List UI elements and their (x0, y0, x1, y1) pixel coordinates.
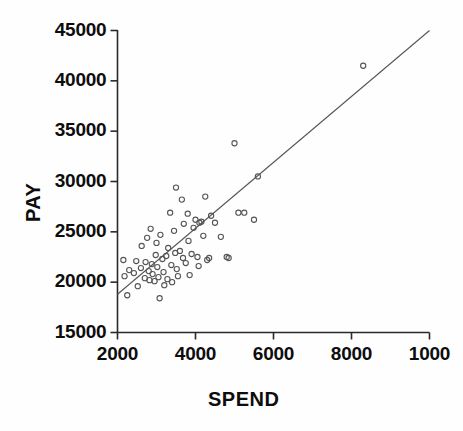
data-point (138, 265, 143, 270)
data-point (150, 272, 155, 277)
data-point (361, 63, 366, 68)
y-tick-label: 20000 (55, 270, 107, 292)
data-point (158, 232, 163, 237)
data-point (218, 234, 223, 239)
data-point (212, 220, 217, 225)
data-point (251, 217, 256, 222)
data-point (121, 257, 126, 262)
data-point (186, 238, 191, 243)
data-point (155, 264, 160, 269)
axes (118, 30, 430, 333)
y-axis-title: PAY (22, 183, 45, 222)
data-point (156, 275, 161, 280)
data-point (201, 233, 206, 238)
data-point (161, 270, 166, 275)
data-point (171, 228, 176, 233)
y-tick-label: 35000 (55, 119, 107, 141)
data-point (185, 211, 190, 216)
data-point (131, 271, 136, 276)
data-point (196, 263, 201, 268)
data-point (242, 210, 247, 215)
data-point (187, 273, 192, 278)
data-point (134, 258, 139, 263)
data-point (236, 210, 241, 215)
data-point (166, 245, 171, 250)
data-point (232, 141, 237, 146)
data-point (183, 260, 188, 265)
data-point (139, 243, 144, 248)
y-tick-label: 25000 (55, 220, 107, 242)
data-point (153, 252, 158, 257)
y-tick-label: 40000 (55, 69, 107, 91)
data-point (181, 221, 186, 226)
data-point (162, 283, 167, 288)
y-tick-label: 30000 (55, 170, 107, 192)
scatter-plot-figure: 15000200002500030000350004000045000 2000… (0, 0, 463, 431)
data-point (122, 274, 127, 279)
data-point (169, 262, 174, 267)
data-point (147, 278, 152, 283)
data-points (121, 63, 366, 301)
data-point (148, 226, 153, 231)
data-point (177, 248, 182, 253)
data-point (135, 284, 140, 289)
y-tick-marks (111, 31, 118, 333)
data-point (179, 197, 184, 202)
x-tick-marks (118, 333, 430, 340)
x-tick-label: 1000 (380, 343, 463, 365)
data-point (154, 240, 159, 245)
x-axis-title: SPEND (208, 388, 279, 411)
data-point (157, 296, 162, 301)
data-point (143, 259, 148, 264)
data-point (195, 254, 200, 259)
data-point (180, 255, 185, 260)
data-point (203, 194, 208, 199)
data-point (145, 235, 150, 240)
data-point (189, 251, 194, 256)
data-point (175, 274, 180, 279)
plot-canvas (0, 0, 463, 431)
data-point (164, 253, 169, 258)
data-point (174, 266, 179, 271)
data-point (168, 210, 173, 215)
y-tick-label: 45000 (55, 19, 107, 41)
data-point (170, 280, 175, 285)
data-point (173, 185, 178, 190)
data-point (125, 293, 130, 298)
y-tick-label: 15000 (55, 321, 107, 343)
